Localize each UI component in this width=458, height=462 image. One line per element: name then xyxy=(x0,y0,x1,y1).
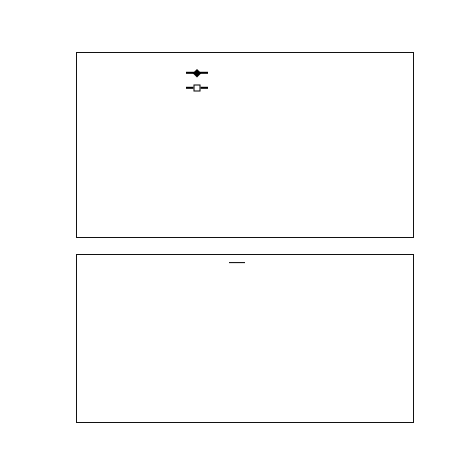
percent-series-layer xyxy=(0,0,458,462)
figure-canvas xyxy=(0,0,458,462)
